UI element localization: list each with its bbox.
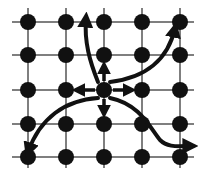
grid-node <box>96 149 112 165</box>
grid-node <box>20 14 36 30</box>
grid-node <box>58 14 74 30</box>
grid-node <box>20 116 36 132</box>
grid-node <box>134 82 150 98</box>
grid-node <box>134 47 150 63</box>
grid-node <box>96 14 112 30</box>
grid-node <box>172 149 188 165</box>
grid-node <box>58 82 74 98</box>
curved-arrow-to-top-middle-left <box>86 18 98 82</box>
grid-node <box>96 116 112 132</box>
grid-node <box>172 82 188 98</box>
grid-node <box>96 82 112 98</box>
grid-node <box>172 116 188 132</box>
grid-node <box>58 47 74 63</box>
grid-node <box>20 47 36 63</box>
grid-node <box>58 149 74 165</box>
grid-node <box>134 14 150 30</box>
grid-node <box>96 47 112 63</box>
grid-node <box>58 116 74 132</box>
grid-node <box>134 149 150 165</box>
grid-node <box>20 82 36 98</box>
grid-diagram <box>0 0 208 171</box>
grid-node <box>172 47 188 63</box>
